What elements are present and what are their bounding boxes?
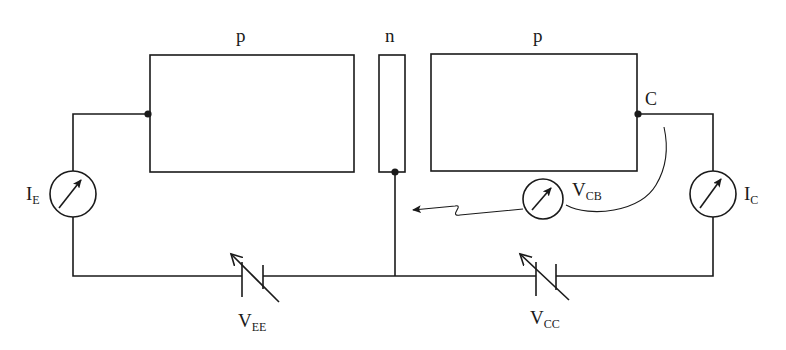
collector-region: p <box>431 25 637 171</box>
emitter-supply-battery: VEE <box>231 254 279 334</box>
pnp-transistor-circuit: p n p C IE IC <box>0 0 786 350</box>
emitter-current-meter: IE <box>26 171 96 217</box>
emitter-region: p <box>150 25 354 172</box>
ic-label: IC <box>744 183 758 207</box>
emitter-region-label: p <box>236 25 246 46</box>
collector-region-label: p <box>533 25 543 46</box>
variable-arrow-icon <box>231 254 279 302</box>
base-region: n <box>379 25 405 172</box>
vcb-label: VCB <box>572 179 602 203</box>
variable-arrow-icon <box>520 254 569 300</box>
collector-terminal-label: C <box>645 89 657 109</box>
vcc-label: VCC <box>530 307 560 331</box>
collector-wire-bottom <box>556 217 713 276</box>
base-region-label: n <box>385 25 395 46</box>
emitter-wire-top <box>73 114 148 171</box>
emitter-wire-bottom <box>73 217 242 276</box>
collector-wire-top <box>638 114 713 171</box>
collector-supply-battery: VCC <box>520 254 569 331</box>
vee-label: VEE <box>238 310 266 334</box>
collector-current-meter: IC <box>690 171 758 217</box>
base-probe-lead <box>413 206 523 215</box>
ie-label: IE <box>26 183 40 207</box>
